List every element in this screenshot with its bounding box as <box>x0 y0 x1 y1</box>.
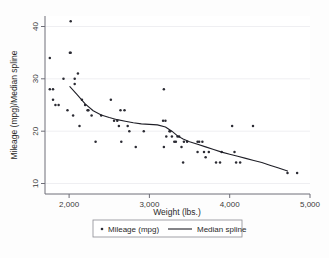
data-point <box>134 146 137 149</box>
data-point <box>162 119 165 122</box>
data-point <box>57 104 60 107</box>
data-point <box>123 109 126 112</box>
data-point <box>49 88 52 91</box>
data-point <box>73 78 76 81</box>
data-point <box>203 151 206 154</box>
data-point <box>118 125 121 128</box>
data-point <box>69 51 72 54</box>
data-point <box>165 135 168 138</box>
data-point <box>72 114 75 117</box>
data-point <box>62 78 65 81</box>
x-tick-label: 2,000 <box>59 200 80 209</box>
legend: Mileage (mpg) Median spline <box>93 220 247 237</box>
data-point <box>231 125 234 128</box>
x-axis-title: Weight (lbs.) <box>153 207 201 217</box>
data-point <box>128 130 131 133</box>
x-tick-label: 5,000 <box>300 200 321 209</box>
data-point <box>78 125 81 128</box>
y-tick-label: 20 <box>31 126 40 135</box>
legend-dot-icon <box>101 228 104 231</box>
data-point <box>90 114 93 117</box>
data-point <box>94 140 97 143</box>
data-point <box>163 88 166 91</box>
y-tick-label: 10 <box>31 179 40 188</box>
y-axis-title: Mileage (mpg)/Median spline <box>9 50 19 159</box>
data-point <box>143 130 146 133</box>
data-point <box>54 104 57 107</box>
legend-label-mileage: Mileage (mpg) <box>108 225 159 234</box>
data-point <box>235 161 238 164</box>
data-point <box>175 140 178 143</box>
data-point <box>77 72 80 75</box>
data-point <box>286 172 289 175</box>
data-point <box>233 151 236 154</box>
data-point <box>252 125 255 128</box>
legend-label-median-spline: Median spline <box>197 225 247 234</box>
data-point <box>52 99 55 102</box>
data-point <box>180 146 183 149</box>
data-point <box>120 140 123 143</box>
y-tick-label: 40 <box>31 22 40 31</box>
data-point <box>66 109 69 112</box>
data-point <box>69 20 72 23</box>
data-point <box>204 156 207 159</box>
data-point <box>164 119 167 122</box>
scatter-plot-svg: 10203040 2,0003,0004,0005,000 Mileage (m… <box>0 0 329 258</box>
data-point <box>49 57 52 60</box>
data-point <box>239 161 242 164</box>
data-point <box>73 83 76 86</box>
data-point <box>163 146 166 149</box>
data-point <box>201 140 204 143</box>
data-point <box>208 151 211 154</box>
data-point <box>126 125 128 128</box>
data-point <box>296 172 299 175</box>
data-point <box>219 161 222 164</box>
data-point <box>215 161 218 164</box>
data-point <box>52 88 55 91</box>
x-tick-label: 4,000 <box>220 200 241 209</box>
data-point <box>196 151 199 154</box>
data-point <box>119 109 122 112</box>
data-point <box>87 109 90 112</box>
chart-figure: 10203040 2,0003,0004,0005,000 Mileage (m… <box>0 0 329 258</box>
y-tick-label: 30 <box>31 74 40 83</box>
data-point <box>182 161 185 164</box>
data-point <box>113 119 116 122</box>
data-point <box>110 99 113 102</box>
data-point <box>183 140 186 143</box>
data-point <box>171 135 174 138</box>
data-point <box>198 140 201 143</box>
